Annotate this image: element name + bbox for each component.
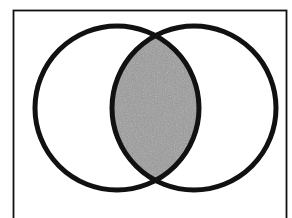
venn-diagram: [0, 0, 292, 218]
